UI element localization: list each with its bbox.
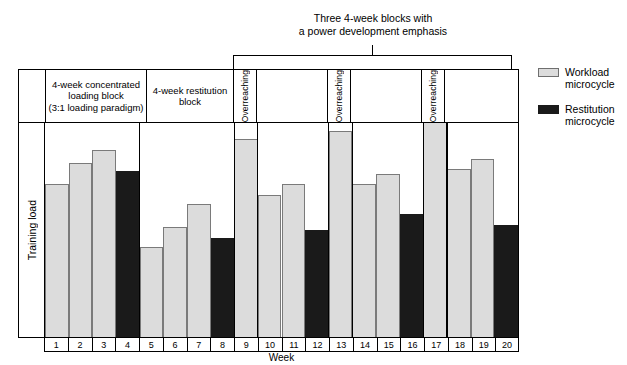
bar-week-10 (258, 195, 282, 337)
bar-week-15 (376, 174, 400, 337)
week-tick-12: 12 (305, 338, 329, 352)
legend-swatch-restitution-icon (538, 105, 559, 114)
header-gap-cell-1 (257, 70, 328, 122)
power-block-caption-line2: a power development emphasis (233, 25, 513, 38)
week-tick-16: 16 (400, 338, 424, 352)
bar-week-6 (163, 227, 187, 337)
week-tick-5: 5 (139, 338, 163, 352)
week-tick-8: 8 (210, 338, 234, 352)
bar-week-17 (423, 123, 447, 337)
block-divider-after-week-4 (139, 123, 140, 337)
week-tick-11: 11 (282, 338, 306, 352)
chart-frame: 4-week concentrated loading block (3:1 l… (18, 69, 519, 338)
legend-label-restitution-line2: microcycle (565, 115, 615, 127)
block-divider-after-week-17 (446, 123, 447, 337)
bar-week-4 (116, 171, 140, 337)
header-spacer-cell (19, 70, 46, 122)
week-tick-3: 3 (92, 338, 116, 352)
bar-week-7 (187, 204, 211, 337)
bar-week-16 (400, 214, 424, 337)
week-tick-14: 14 (353, 338, 377, 352)
legend-swatch-workload-icon (538, 68, 559, 77)
bar-week-14 (352, 184, 376, 337)
block-label-restitution-line2: block (153, 96, 227, 108)
week-tick-10: 10 (258, 338, 282, 352)
bar-week-5 (140, 247, 164, 337)
week-tick-4: 4 (115, 338, 139, 352)
overreaching-text-2: Overreaching (334, 70, 344, 122)
legend-label-workload: Workload microcycle (565, 66, 615, 90)
block-divider-after-week-8 (234, 123, 235, 337)
overreaching-text-3: Overreaching (428, 70, 438, 122)
y-axis-label-text: Training load (26, 200, 38, 260)
bar-week-12 (305, 230, 329, 338)
week-tick-1: 1 (44, 338, 68, 352)
header-gap-cell-2 (351, 70, 422, 122)
block-label-loading: 4-week concentrated loading block (3:1 l… (46, 70, 147, 122)
block-label-loading-line2: loading block (48, 90, 143, 102)
bar-week-1 (45, 184, 69, 337)
bar-week-2 (69, 163, 93, 337)
block-divider-after-week-9 (257, 123, 258, 337)
legend-label-workload-line1: Workload (565, 66, 615, 78)
bar-week-13 (329, 131, 353, 337)
block-label-loading-line3: (3:1 loading paradigm) (48, 102, 143, 114)
block-header-band: 4-week concentrated loading block (3:1 l… (19, 70, 518, 123)
overreaching-label-week9: Overreaching (234, 70, 257, 122)
week-tick-9: 9 (234, 338, 258, 352)
header-gap-cell-3 (445, 70, 518, 122)
legend: Workload microcycle Restitution microcyc… (538, 66, 622, 140)
legend-item-restitution: Restitution microcycle (538, 103, 622, 127)
bar-week-19 (471, 159, 495, 337)
week-tick-17: 17 (424, 338, 448, 352)
legend-label-restitution-line1: Restitution (565, 103, 615, 115)
legend-label-workload-line2: microcycle (565, 78, 615, 90)
overreaching-label-week13: Overreaching (328, 70, 351, 122)
x-axis-label: Week (44, 352, 519, 363)
overreaching-text-1: Overreaching (240, 70, 250, 122)
bar-week-11 (282, 184, 306, 337)
block-divider-after-week-12 (328, 123, 329, 337)
legend-label-restitution: Restitution microcycle (565, 103, 615, 127)
overreaching-label-week17: Overreaching (422, 70, 445, 122)
block-divider-after-week-16 (423, 123, 424, 337)
block-label-loading-line1: 4-week concentrated (48, 79, 143, 91)
block-label-restitution: 4-week restitution block (147, 70, 234, 122)
block-divider-after-week-13 (352, 123, 353, 337)
plot-area (45, 123, 518, 337)
bar-week-3 (92, 150, 116, 337)
bar-week-8 (211, 238, 235, 337)
week-tick-7: 7 (187, 338, 211, 352)
week-tick-15: 15 (377, 338, 401, 352)
power-block-bracket (233, 55, 512, 69)
legend-item-workload: Workload microcycle (538, 66, 622, 90)
power-block-caption: Three 4-week blocks with a power develop… (233, 12, 513, 38)
week-tick-18: 18 (448, 338, 472, 352)
week-tick-2: 2 (68, 338, 92, 352)
block-label-restitution-line1: 4-week restitution (153, 85, 227, 97)
week-tick-13: 13 (329, 338, 353, 352)
bar-week-18 (447, 169, 471, 337)
week-tick-20: 20 (495, 338, 519, 352)
bar-week-20 (494, 225, 518, 337)
bar-week-9 (234, 139, 258, 337)
y-axis-label: Training load (19, 123, 45, 337)
week-tick-19: 19 (472, 338, 496, 352)
week-axis-row: 1234567891011121314151617181920 (44, 338, 519, 352)
week-tick-6: 6 (163, 338, 187, 352)
power-block-caption-line1: Three 4-week blocks with (233, 12, 513, 25)
